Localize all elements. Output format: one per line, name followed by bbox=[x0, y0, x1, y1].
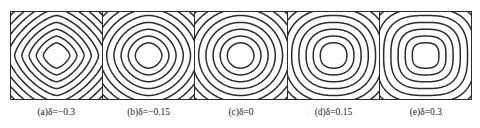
contour-line bbox=[11, 12, 102, 99]
contour-line bbox=[11, 12, 102, 99]
contour-panel-d bbox=[288, 12, 380, 99]
contour-line bbox=[398, 29, 453, 81]
contour-line bbox=[313, 36, 354, 75]
contour-line bbox=[195, 12, 286, 99]
contour-line bbox=[195, 12, 286, 99]
contour-panel-strip bbox=[10, 11, 472, 100]
caption-panel-b: (b)δ=−0.15 bbox=[102, 103, 194, 121]
contour-line bbox=[121, 29, 176, 81]
contour-line bbox=[43, 43, 70, 68]
contour-line bbox=[320, 43, 347, 68]
contour-line bbox=[391, 22, 460, 88]
contour-svg-c bbox=[195, 12, 286, 99]
contour-line bbox=[380, 12, 471, 99]
contour-panel-a bbox=[11, 12, 103, 99]
contour-line bbox=[380, 12, 471, 99]
contour-svg-a bbox=[11, 12, 102, 99]
contour-line bbox=[288, 12, 379, 99]
contour-line bbox=[29, 29, 84, 81]
contour-line bbox=[136, 43, 163, 68]
contour-line bbox=[299, 22, 368, 88]
contour-line bbox=[380, 12, 471, 99]
contour-panel-e bbox=[380, 12, 471, 99]
contour-line bbox=[11, 12, 102, 99]
caption-panel-e: (e)δ=0.3 bbox=[380, 103, 472, 121]
contour-line bbox=[228, 43, 255, 68]
caption-panel-d: (d)δ=0.15 bbox=[287, 103, 379, 121]
caption-panel-a: (a)δ=−0.3 bbox=[10, 103, 102, 121]
contour-line bbox=[11, 12, 102, 99]
contour-figure: (a)δ=−0.3 (b)δ=−0.15 (c)δ=0 (d)δ=0.15 (e… bbox=[0, 0, 480, 128]
contour-line bbox=[195, 12, 286, 99]
contour-line bbox=[288, 12, 379, 99]
contour-line bbox=[288, 12, 379, 99]
contour-line bbox=[103, 12, 194, 99]
contour-line bbox=[128, 36, 169, 75]
contour-line bbox=[195, 12, 286, 99]
contour-svg-d bbox=[288, 12, 379, 99]
contour-line bbox=[288, 12, 379, 99]
caption-panel-c: (c)δ=0 bbox=[195, 103, 287, 121]
contour-line bbox=[214, 29, 269, 81]
contour-line bbox=[195, 12, 286, 99]
contour-line bbox=[195, 12, 286, 99]
contour-line bbox=[306, 29, 361, 81]
contour-line bbox=[380, 12, 471, 99]
contour-line bbox=[199, 15, 283, 95]
contour-line bbox=[291, 15, 375, 95]
contour-line bbox=[114, 22, 183, 88]
contour-line bbox=[36, 36, 77, 75]
contour-line bbox=[107, 15, 191, 95]
contour-line bbox=[380, 12, 471, 99]
contour-line bbox=[11, 12, 102, 99]
contour-panel-c bbox=[195, 12, 287, 99]
contour-svg-e bbox=[380, 12, 471, 99]
contour-line bbox=[11, 12, 102, 99]
contour-line bbox=[22, 22, 91, 88]
contour-line bbox=[405, 36, 446, 75]
contour-line bbox=[103, 12, 194, 99]
contour-line bbox=[103, 12, 194, 99]
contour-line bbox=[412, 43, 439, 68]
caption-row: (a)δ=−0.3 (b)δ=−0.15 (c)δ=0 (d)δ=0.15 (e… bbox=[10, 103, 472, 121]
contour-line bbox=[288, 12, 379, 99]
contour-line bbox=[103, 12, 194, 99]
contour-line bbox=[15, 15, 99, 95]
contour-line bbox=[103, 12, 194, 99]
contour-line bbox=[383, 15, 467, 95]
contour-svg-b bbox=[103, 12, 194, 99]
contour-line bbox=[206, 22, 275, 88]
contour-line bbox=[380, 12, 471, 99]
contour-panel-b bbox=[103, 12, 195, 99]
contour-line bbox=[103, 12, 194, 99]
contour-line bbox=[288, 12, 379, 99]
contour-line bbox=[221, 36, 262, 75]
